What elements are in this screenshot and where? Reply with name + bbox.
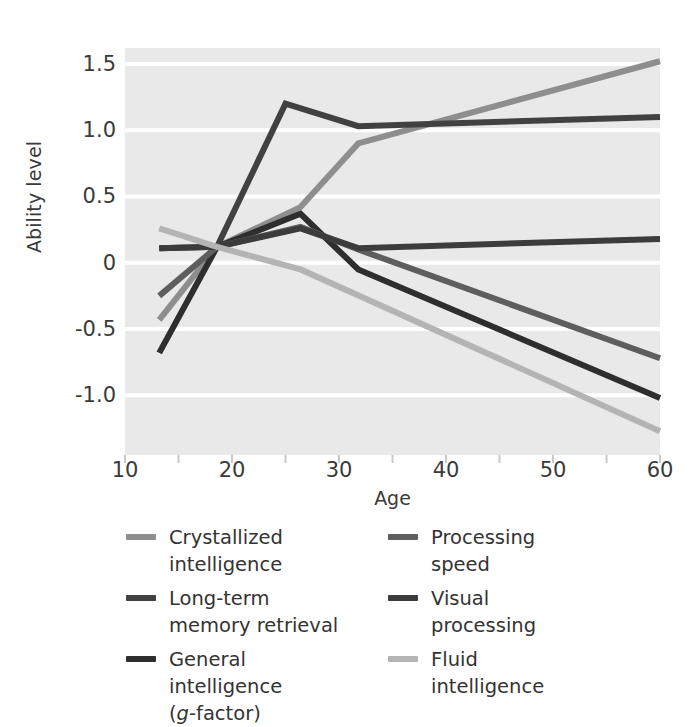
x-tick-label: 30 [326,458,353,482]
line-plot [0,0,698,520]
x-tick-label: 40 [433,458,460,482]
legend-color-swatch [126,534,156,540]
legend-item[interactable]: Fluidintelligence [388,646,688,727]
legend-color-swatch [388,595,418,601]
legend-color-swatch [388,656,418,662]
legend-item[interactable]: Generalintelligence(g-factor) [126,646,388,727]
legend-item[interactable]: Processingspeed [388,524,688,578]
x-tick-label: 50 [540,458,567,482]
chart-legend: CrystallizedintelligenceProcessingspeedL… [0,524,698,722]
x-axis-title: Age [125,487,660,509]
legend-item-label: Generalintelligence(g-factor) [169,646,282,727]
legend-item-label: Fluidintelligence [431,646,544,700]
legend-item-label: Long-termmemory retrieval [169,585,338,639]
legend-item-label: Visualprocessing [431,585,536,639]
x-tick-label: 20 [219,458,246,482]
x-tick-label: 60 [647,458,674,482]
legend-color-swatch [126,595,156,601]
legend-color-swatch [388,534,418,540]
x-tick-label: 10 [112,458,139,482]
legend-item-label: Processingspeed [431,524,535,578]
legend-item-label: Crystallizedintelligence [169,524,283,578]
legend-item[interactable]: Long-termmemory retrieval [126,585,388,639]
legend-item[interactable]: Visualprocessing [388,585,688,639]
legend-color-swatch [126,656,156,662]
legend-item[interactable]: Crystallizedintelligence [126,524,388,578]
chart-area: Ability level 1.51.00.50-0.5-1.0 1020304… [0,0,698,520]
